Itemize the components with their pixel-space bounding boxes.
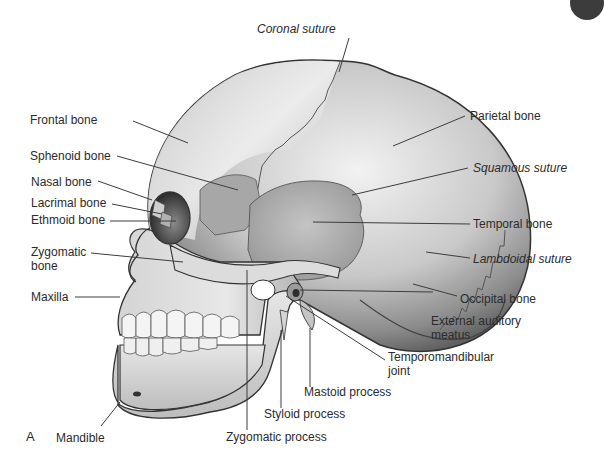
label-lambdoidal-suture: Lambdoidal suture xyxy=(473,252,572,266)
label-zygomatic-bone-line2: bone xyxy=(31,259,58,273)
label-occipital-bone: Occipital bone xyxy=(460,292,536,306)
label-lacrimal-bone: Lacrimal bone xyxy=(31,196,106,210)
label-ethmoid-bone: Ethmoid bone xyxy=(31,213,105,227)
label-parietal-bone: Parietal bone xyxy=(470,109,541,123)
label-nasal-bone: Nasal bone xyxy=(31,175,92,189)
label-zygomatic-process: Zygomatic process xyxy=(226,430,327,444)
label-frontal-bone: Frontal bone xyxy=(30,113,97,127)
label-mandible: Mandible xyxy=(56,431,105,445)
label-temporal-bone: Temporal bone xyxy=(473,217,552,231)
label-sphenoid-bone: Sphenoid bone xyxy=(30,149,111,163)
label-mastoid-process: Mastoid process xyxy=(304,385,391,399)
label-temporomandibular-joint-line2: joint xyxy=(388,364,410,378)
label-external-auditory-meatus-line2: meatus xyxy=(431,328,470,342)
label-temporomandibular-joint-line1: Temporomandibular xyxy=(388,350,494,364)
panel-letter: A xyxy=(26,430,35,444)
label-styloid-process: Styloid process xyxy=(264,407,345,421)
label-coronal-suture: Coronal suture xyxy=(257,22,336,36)
label-squamous-suture: Squamous suture xyxy=(473,161,567,175)
label-zygomatic-bone-line1: Zygomatic xyxy=(31,245,86,259)
label-external-auditory-meatus-line1: External auditory xyxy=(431,314,521,328)
label-maxilla: Maxilla xyxy=(31,290,68,304)
